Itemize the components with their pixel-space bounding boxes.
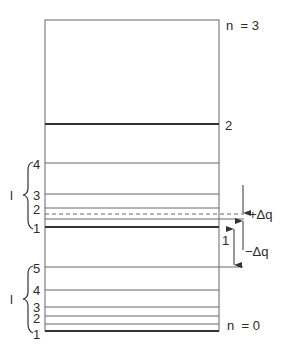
lower-brace-icon: [23, 266, 33, 333]
top-n3-label: n = 3: [226, 18, 259, 33]
n2-label: 2: [225, 118, 232, 133]
lower-level-1-label: 1: [33, 327, 40, 342]
bottom-n0-label: n = 0: [227, 318, 260, 333]
lower-level-5-label: 5: [33, 261, 40, 276]
level-box: [45, 20, 219, 331]
lower-level-4-label: 4: [33, 283, 40, 298]
energy-level-diagram: n = 3 2 n = 0 l l 4 3 2 1 5 4 3 2 1 +Δq …: [0, 0, 296, 354]
upper-level-4-label: 4: [33, 157, 40, 172]
unit-spacing-label: 1: [222, 233, 229, 248]
upper-brace-label: l: [10, 188, 13, 203]
minus-dq-label: −Δq: [245, 244, 269, 259]
upper-level-2-label: 2: [33, 202, 40, 217]
lower-level-2-label: 2: [33, 311, 40, 326]
plus-dq-label: +Δq: [249, 207, 273, 222]
upper-level-3-label: 3: [33, 188, 40, 203]
upper-brace-icon: [23, 162, 33, 229]
lower-brace-label: l: [10, 292, 13, 307]
upper-level-1-label: 1: [33, 221, 40, 236]
